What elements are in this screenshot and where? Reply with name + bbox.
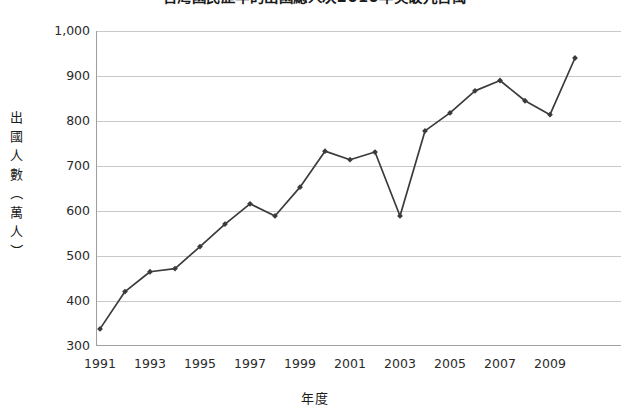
y-axis-title-char-3: 數 xyxy=(6,165,26,184)
y-axis-title-char-6: 人 xyxy=(6,222,26,241)
x-axis-title: 年度 xyxy=(0,388,629,407)
data-point-2001 xyxy=(347,157,353,163)
data-line-series-1 xyxy=(100,58,575,329)
axis-lines xyxy=(96,31,621,346)
x-axis-tick-labels: 1991199319951997199920012003200520072009 xyxy=(0,356,629,374)
y-tick-1000: 1,000 xyxy=(44,25,90,38)
y-tick-600: 600 xyxy=(44,205,90,218)
y-axis-title-char-1: 國 xyxy=(6,127,26,146)
data-point-markers xyxy=(97,55,578,332)
y-tick-700: 700 xyxy=(44,160,90,173)
chart-container: 台灣國民歷年的出國總人次2010年突破九百萬 1,000 900 800 700… xyxy=(0,0,629,416)
y-axis-title-char-7: ） xyxy=(7,241,26,261)
y-axis-title: 出 國 人 數 （ 萬 人 ） xyxy=(6,108,26,260)
y-tick-300: 300 xyxy=(44,340,90,353)
data-point-2002 xyxy=(372,149,378,155)
y-axis-title-char-2: 人 xyxy=(6,146,26,165)
y-axis-title-char-0: 出 xyxy=(6,108,26,127)
plot-area xyxy=(96,31,621,346)
data-point-2003 xyxy=(397,213,403,219)
y-tick-500: 500 xyxy=(44,250,90,263)
data-point-2010 xyxy=(572,55,578,61)
chart-title: 台灣國民歷年的出國總人次2010年突破九百萬 xyxy=(0,0,629,6)
y-tick-800: 800 xyxy=(44,115,90,128)
gridlines xyxy=(96,32,621,347)
line-chart-svg xyxy=(96,31,621,346)
y-axis-title-char-4: （ xyxy=(7,184,26,204)
x-tick-2009: 2009 xyxy=(520,356,580,371)
y-axis-title-char-5: 萬 xyxy=(6,203,26,222)
y-axis-tick-labels: 1,000 900 800 700 600 500 400 300 xyxy=(36,0,90,346)
y-tick-400: 400 xyxy=(44,295,90,308)
y-tick-900: 900 xyxy=(44,70,90,83)
